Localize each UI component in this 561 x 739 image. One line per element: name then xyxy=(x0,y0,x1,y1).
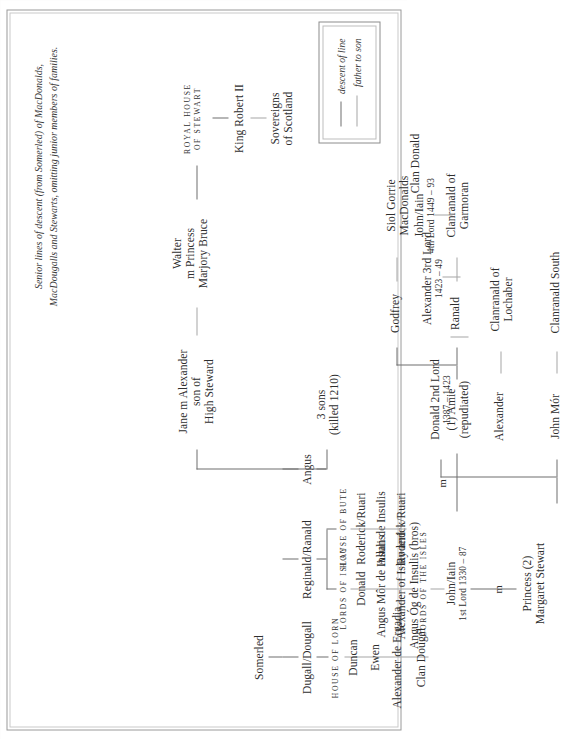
node-three-sons-line1: 3 sons xyxy=(314,361,327,447)
node-siol-gorrie-line1: Siol Gorrie xyxy=(384,153,397,257)
node-john-mor: John Mór xyxy=(548,373,561,459)
legend-item-descent-of-line: descent of line xyxy=(335,38,346,126)
node-princess-line2: Margaret Stewart xyxy=(533,505,546,661)
node-king-robert-ii: King Robert II xyxy=(232,63,245,173)
heading-royal-house-line2: OF STEWART xyxy=(192,63,202,173)
node-clan-donald-label: Clan Donald xyxy=(408,111,421,215)
connector-drop-dugall xyxy=(282,656,298,657)
connector-john-to-amie xyxy=(456,453,457,511)
node-john-iain-1st-lord: John/Iain 1st Lord 1330 – 87 xyxy=(444,513,467,653)
node-jane-line3: High Steward xyxy=(202,335,215,447)
connector-drop-reginald xyxy=(282,558,298,559)
node-clanranald-garmoran-line1: Clanranald of xyxy=(444,153,457,257)
heading-house-of-bute: HOUSE OF BUTE xyxy=(338,467,348,587)
connector-alex3-to-john4 xyxy=(442,276,460,277)
connector-princess-to-bar xyxy=(556,477,557,503)
node-clanranald-south-label: Clanranald South xyxy=(548,233,561,351)
node-jane: Jane m Alexander son of High Steward xyxy=(176,335,215,447)
connector-alexander-to-lochaber xyxy=(500,351,501,373)
node-john-iain-dates: 1st Lord 1330 – 87 xyxy=(457,513,467,653)
connector-john4-to-clandonald xyxy=(434,214,452,215)
node-sovereigns-line2: of Scotland xyxy=(281,63,294,173)
connector-to-islay xyxy=(326,588,336,589)
node-john-mor-label: John Mór xyxy=(548,373,561,459)
node-three-sons: 3 sons (killed 1210) xyxy=(314,361,340,447)
connector-princess-children-bar xyxy=(440,476,556,477)
node-sovereigns-of-scotland: Sovereigns of Scotland xyxy=(268,63,294,173)
node-three-sons-line2: (killed 1210) xyxy=(327,361,340,447)
connector-somerled-stem xyxy=(268,656,282,657)
node-alexander-label: Alexander xyxy=(492,373,505,459)
node-princess-margaret-stewart: Princess (2) Margaret Stewart xyxy=(520,505,546,661)
node-clanranald-of-garmoran: Clanranald of Garmoran xyxy=(444,153,470,257)
legend-swatch-descent-icon xyxy=(340,101,341,126)
node-jane-line1: Jane m Alexander xyxy=(176,335,189,447)
heading-royal-house-line1: ROYAL HOUSE xyxy=(182,63,192,173)
connector-to-ranald xyxy=(456,347,457,365)
node-donald-2nd-line1: Donald 2nd Lord xyxy=(428,339,441,459)
heading-royal-house-of-stewart: ROYAL HOUSE OF STEWART xyxy=(182,63,203,173)
node-dugall: Dugall/Dougall xyxy=(300,605,313,709)
node-king-robert-ii-label: King Robert II xyxy=(232,63,245,173)
connector-isles-stem xyxy=(430,588,444,589)
connector-donald2-to-alex3 xyxy=(450,336,468,337)
node-reginald: Reginald/Ranald xyxy=(300,503,313,615)
connector-robert-to-sovereigns xyxy=(250,117,266,118)
node-jane-line2: son of xyxy=(189,335,202,447)
legend-label-descent: descent of line xyxy=(335,38,346,93)
plate-caption: Senior lines of descent (from Somerled) … xyxy=(30,26,60,326)
connector-islay-chain xyxy=(350,588,412,589)
connector-jane-to-walter xyxy=(196,307,197,335)
legend-item-father-to-son: father to son xyxy=(351,38,362,126)
node-clanranald-lochaber-line1: Clanranald of xyxy=(488,247,501,351)
node-reginald-label: Reginald/Ranald xyxy=(300,503,313,615)
node-princess-line1: Princess (2) xyxy=(520,505,533,661)
connector-angus-bar xyxy=(196,468,326,469)
node-godfrey: Godfrey xyxy=(388,279,401,347)
node-john-iain-line1: John/Iain xyxy=(444,513,457,653)
node-walter-line3: Marjory Bruce xyxy=(196,201,209,305)
connector-bute-chain xyxy=(350,528,406,529)
legend-label-father: father to son xyxy=(351,38,362,87)
node-clanranald-lochaber-line2: Lochaber xyxy=(501,247,514,351)
marriage-mark-islay: m xyxy=(436,479,447,487)
node-clanranald-south: Clanranald South xyxy=(548,233,561,351)
node-alexander: Alexander xyxy=(492,373,505,459)
connector-to-bute xyxy=(326,528,336,529)
connector-angus-to-3sons xyxy=(326,449,327,469)
connector-bar-to-johnmor xyxy=(556,459,557,477)
node-dugall-label: Dugall/Dougall xyxy=(300,605,313,709)
connector-godfrey-to-siol xyxy=(396,257,397,281)
node-clanranald-garmoran-line2: Garmoran xyxy=(457,153,470,257)
connector-amie-stem xyxy=(456,365,457,379)
node-sovereigns-line1: Sovereigns xyxy=(268,63,281,173)
node-somerled: Somerled xyxy=(252,611,265,703)
connector-to-godfrey xyxy=(396,347,397,365)
connector-johnmor-to-south xyxy=(556,351,557,373)
connector-lorn-stem xyxy=(316,656,328,657)
legend-swatch-father-icon xyxy=(356,95,357,126)
legend-inner: descent of line father to son xyxy=(322,25,376,139)
caption-line-1: Senior lines of descent (from Somerled) … xyxy=(30,26,45,326)
connector-stewart-stem xyxy=(212,117,228,118)
caption-line-2: MacDougalls and Stewarts, omitting junio… xyxy=(45,26,60,326)
node-somerled-label: Somerled xyxy=(252,611,265,703)
connector-princess-stem xyxy=(470,588,516,589)
node-clanranald-of-lochaber: Clanranald of Lochaber xyxy=(488,247,514,351)
node-walter-line2: m Princess xyxy=(183,201,196,305)
node-walter-line1: Walter xyxy=(170,201,183,305)
connector-bar-to-donald2 xyxy=(440,459,441,477)
connector-reginald-split xyxy=(326,529,327,589)
node-donald-2nd-dates: 1387 – 1423 xyxy=(441,339,451,459)
legend-box: descent of line father to son xyxy=(318,21,380,143)
node-donald-2nd-lord: Donald 2nd Lord 1387 – 1423 xyxy=(428,339,451,459)
connector-reginald-stem xyxy=(316,558,326,559)
heading-lords-of-the-isles: LORDS OF THE ISLES xyxy=(418,513,428,653)
node-siol-gorrie-macdonalds: Siol Gorrie MacDonalds xyxy=(384,153,410,257)
node-walter: Walter m Princess Marjory Bruce xyxy=(170,201,209,305)
node-godfrey-label: Godfrey xyxy=(388,279,401,347)
node-clan-donald: Clan Donald xyxy=(408,111,421,215)
connector-angus-to-jane xyxy=(196,449,197,469)
